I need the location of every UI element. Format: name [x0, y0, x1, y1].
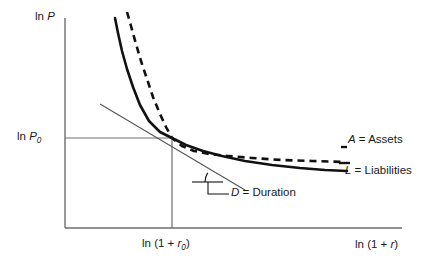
assets-text: = Assets	[356, 133, 403, 145]
x-tick-r0-pre: ln (1 +	[142, 237, 177, 249]
assets-symbol: A	[348, 133, 356, 145]
price-yield-duration-chart: ln P ln P0 ln (1 + r0) ln (1 + r) A = As…	[0, 0, 433, 269]
x-tick-r0-subscript: 0	[181, 243, 186, 252]
assets-series-label: A = Assets	[348, 134, 403, 146]
y-tick-p0-subscript: 0	[37, 136, 42, 145]
x-tick-r0-post: )	[186, 237, 190, 249]
y-axis-label-prefix: ln	[35, 10, 47, 22]
x-axis-label: ln (1 + r)	[355, 239, 398, 251]
liabilities-curve	[115, 18, 347, 171]
y-tick-p0-prefix: ln	[17, 130, 29, 142]
duration-angle-arc	[205, 173, 208, 182]
y-axis-label-symbol: P	[47, 10, 55, 22]
x-tick-label-r0: ln (1 + r0)	[142, 238, 190, 250]
liabilities-text: = Liabilities	[351, 164, 411, 176]
duration-annotation-label: D = Duration	[231, 187, 296, 199]
duration-leader-line	[208, 182, 229, 194]
liabilities-series-label: L = Liabilities	[345, 165, 412, 177]
y-tick-p0-symbol: P	[29, 130, 37, 142]
x-axis-label-pre: ln (1 +	[355, 238, 390, 250]
x-axis-label-post: )	[394, 238, 398, 250]
y-tick-label-p0: ln P0	[17, 131, 41, 143]
duration-text: = Duration	[239, 186, 296, 198]
y-axis-label: ln P	[35, 11, 55, 23]
